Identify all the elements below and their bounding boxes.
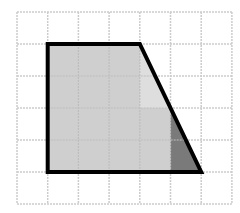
grid-figure	[0, 0, 240, 213]
